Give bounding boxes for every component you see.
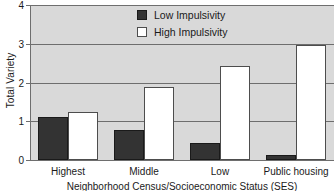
y-tick-label-3: 3 — [0, 40, 24, 50]
gridline-4 — [30, 5, 334, 6]
y-tick-label-4: 4 — [0, 1, 24, 11]
bar-highest-high-impulsivity — [68, 112, 98, 160]
bar-low-low-impulsivity — [190, 143, 220, 160]
legend-label-low: Low Impulsivity — [154, 9, 225, 21]
bar-low-high-impulsivity — [220, 66, 250, 160]
bar-middle-low-impulsivity — [114, 130, 144, 160]
category-label-3: Public housing — [238, 166, 334, 177]
bar-public-housing-high-impulsivity — [296, 45, 326, 160]
x-axis-line — [30, 160, 334, 161]
y-axis-line — [30, 5, 31, 161]
bar-chart: Total Variety 4 3 2 1 0 Highest Middle L… — [0, 0, 334, 191]
gridline-3 — [30, 44, 334, 45]
bar-highest-low-impulsivity — [38, 117, 68, 160]
y-tick-label-1: 1 — [0, 117, 24, 127]
legend-label-high: High Impulsivity — [154, 26, 228, 38]
legend-swatch-icon-low — [137, 10, 147, 20]
y-tick-label-0: 0 — [0, 156, 24, 166]
y-tick-label-2: 2 — [0, 79, 24, 89]
y-axis-ticks: 4 3 2 1 0 — [0, 0, 26, 191]
x-axis-category-labels: Highest Middle Low Public housing — [30, 166, 334, 180]
bar-middle-high-impulsivity — [144, 87, 174, 160]
legend-item-high-impulsivity: High Impulsivity — [137, 24, 228, 39]
legend-swatch-icon-high — [137, 27, 147, 37]
gridline-2 — [30, 83, 334, 84]
legend-item-low-impulsivity: Low Impulsivity — [137, 7, 228, 22]
legend: Low Impulsivity High Impulsivity — [137, 7, 228, 41]
x-axis-title: Neighborhood Census/Socioeconomic Status… — [30, 181, 334, 191]
